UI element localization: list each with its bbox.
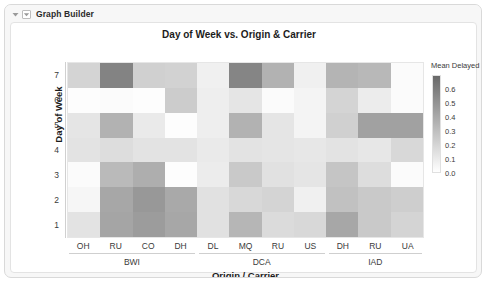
heatmap-cell[interactable] — [326, 63, 358, 88]
legend-tick-label: 0.2 — [445, 141, 455, 150]
heatmap-cell[interactable] — [294, 212, 326, 237]
heatmap-cell[interactable] — [68, 63, 100, 88]
heatmap-cell[interactable] — [294, 187, 326, 212]
x-axis-tick-label: RU — [359, 240, 391, 253]
heatmap-cell[interactable] — [68, 212, 100, 237]
heatmap-cell[interactable] — [262, 212, 294, 237]
heatmap-cell[interactable] — [68, 138, 100, 163]
heatmap-cell[interactable] — [133, 88, 165, 113]
x-axis-group-label: DCA — [197, 253, 327, 270]
heatmap-cell[interactable] — [391, 88, 423, 113]
heatmap-cell[interactable] — [391, 113, 423, 138]
heatmap-cell[interactable] — [326, 187, 358, 212]
heatmap-cell[interactable] — [100, 212, 132, 237]
heatmap-cell[interactable] — [165, 63, 197, 88]
heatmap-cell[interactable] — [197, 212, 229, 237]
heatmap-cell[interactable] — [197, 113, 229, 138]
heatmap-cell[interactable] — [68, 162, 100, 187]
heatmap-cell[interactable] — [133, 138, 165, 163]
heatmap-cell[interactable] — [229, 63, 261, 88]
heatmap-cell[interactable] — [133, 63, 165, 88]
heatmap-cell[interactable] — [294, 88, 326, 113]
heatmap-cell[interactable] — [358, 63, 390, 88]
x-axis-tick-label: US — [294, 240, 326, 253]
heatmap-cell[interactable] — [326, 212, 358, 237]
heatmap-cell[interactable] — [326, 138, 358, 163]
heatmap-cell[interactable] — [100, 138, 132, 163]
heatmap-cell[interactable] — [229, 162, 261, 187]
legend: Mean Delayed 0.60.50.40.30.20.10.0 — [431, 61, 482, 181]
heatmap-cell[interactable] — [358, 162, 390, 187]
heatmap-cell[interactable] — [165, 138, 197, 163]
triangle-down-icon[interactable] — [11, 10, 20, 19]
heatmap-cell[interactable] — [133, 212, 165, 237]
legend-tick-label: 0.5 — [445, 99, 455, 108]
heatmap-cell[interactable] — [262, 138, 294, 163]
heatmap-cell[interactable] — [294, 63, 326, 88]
heatmap-cell[interactable] — [229, 88, 261, 113]
heatmap-cell[interactable] — [391, 63, 423, 88]
heatmap-cell[interactable] — [294, 113, 326, 138]
heatmap-cell[interactable] — [197, 63, 229, 88]
legend-tick-label: 0.6 — [445, 85, 455, 94]
heatmap-cell[interactable] — [391, 138, 423, 163]
heatmap-cell[interactable] — [294, 162, 326, 187]
heatmap-cell[interactable] — [262, 88, 294, 113]
heatmap-cell[interactable] — [100, 187, 132, 212]
x-axis-group-label: BWI — [67, 253, 197, 270]
heatmap-cell[interactable] — [358, 113, 390, 138]
heatmap-cell[interactable] — [165, 212, 197, 237]
heatmap-cell[interactable] — [100, 88, 132, 113]
heatmap-cell[interactable] — [262, 187, 294, 212]
heatmap-cell[interactable] — [100, 63, 132, 88]
heatmap-cell[interactable] — [391, 187, 423, 212]
heatmap-cell[interactable] — [229, 187, 261, 212]
heatmap-cell[interactable] — [68, 187, 100, 212]
x-axis-tick-label: DH — [327, 240, 359, 253]
heatmap-cell[interactable] — [358, 212, 390, 237]
heatmap-cell[interactable] — [197, 138, 229, 163]
heatmap-cell[interactable] — [391, 162, 423, 187]
x-axis-tick-label: MQ — [229, 240, 261, 253]
y-axis-tick-label: 5 — [43, 120, 59, 130]
y-axis-ticks: 7654321 — [47, 62, 63, 238]
heatmap-cell[interactable] — [165, 88, 197, 113]
heatmap-cell[interactable] — [358, 187, 390, 212]
heatmap-cell[interactable] — [294, 138, 326, 163]
y-axis-tick-label: 1 — [43, 220, 59, 230]
heatmap-cell[interactable] — [197, 162, 229, 187]
heatmap-cell[interactable] — [100, 162, 132, 187]
x-axis-carrier-ticks: OHRUCODHDLMQRUUSDHRUUA — [67, 240, 424, 253]
heatmap-cell[interactable] — [229, 212, 261, 237]
heatmap-cell[interactable] — [197, 88, 229, 113]
heatmap-cell[interactable] — [197, 187, 229, 212]
heatmap-cell[interactable] — [391, 212, 423, 237]
heatmap-cell[interactable] — [100, 113, 132, 138]
heatmap-cell[interactable] — [165, 113, 197, 138]
x-axis-tick-label: DL — [197, 240, 229, 253]
heatmap-cell[interactable] — [262, 63, 294, 88]
triangle-down-boxed-icon[interactable] — [22, 10, 31, 19]
heatmap-cell[interactable] — [165, 162, 197, 187]
heatmap-cell[interactable] — [229, 113, 261, 138]
heatmap-cell[interactable] — [133, 187, 165, 212]
heatmap-cell[interactable] — [326, 162, 358, 187]
heatmap-plot-area[interactable] — [67, 62, 424, 238]
heatmap-cell[interactable] — [165, 187, 197, 212]
heatmap-cell[interactable] — [326, 88, 358, 113]
legend-gradient-bar — [432, 75, 441, 173]
heatmap-cell[interactable] — [68, 113, 100, 138]
heatmap-cell[interactable] — [133, 113, 165, 138]
heatmap-cell[interactable] — [262, 113, 294, 138]
heatmap-cell[interactable] — [68, 88, 100, 113]
y-axis-tick-label: 2 — [43, 195, 59, 205]
heatmap-cell[interactable] — [262, 162, 294, 187]
heatmap-cell[interactable] — [133, 162, 165, 187]
chart-title: Day of Week vs. Origin & Carrier — [57, 29, 421, 40]
y-axis-line — [65, 62, 66, 238]
heatmap-cell[interactable] — [229, 138, 261, 163]
heatmap-cell[interactable] — [358, 88, 390, 113]
heatmap-cell[interactable] — [326, 113, 358, 138]
heatmap-cell[interactable] — [358, 138, 390, 163]
window-title-label: Graph Builder — [36, 9, 94, 19]
